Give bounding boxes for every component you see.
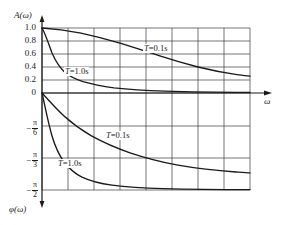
ytick-magnitude-0-4: 0.4 — [6, 62, 36, 71]
ytick-phase-pi-over-2: −π2 — [8, 180, 38, 199]
annotation-value: =1.0s — [63, 158, 82, 168]
pi-numerator: π — [32, 181, 38, 190]
y-axis-phase — [40, 93, 45, 208]
six-denominator: 6 — [32, 128, 38, 138]
annotation-phase-T10: T=1.0s — [57, 159, 82, 168]
ytick-magnitude-0-8: 0.8 — [6, 36, 36, 45]
response-plot-svg — [0, 0, 281, 225]
x-axis-arrow — [264, 91, 272, 96]
x-axis-label-omega: ω — [264, 97, 270, 106]
annotation-value: =0.1s — [111, 130, 130, 140]
pi-numerator: π — [32, 151, 38, 160]
ytick-magnitude-0-2: 0.2 — [6, 75, 36, 84]
ytick-phase-pi-over-6: −π6 — [8, 118, 38, 137]
ytick-phase-pi-over-3: −π3 — [8, 150, 38, 169]
y-axis-arrow-top — [40, 15, 45, 22]
y-axis-arrow-bottom — [40, 201, 45, 208]
figure-container: 1.0 0.8 0.6 0.4 0.2 0 −π6 −π3 −π2 A(ω) φ… — [0, 0, 281, 225]
annotation-magnitude-T01: T=0.1s — [143, 44, 168, 53]
annotation-phase-T01: T=0.1s — [105, 131, 130, 140]
y-axis-label-phase: φ(ω) — [9, 205, 26, 214]
ytick-magnitude-1-0: 1.0 — [6, 23, 36, 32]
three-denominator: 3 — [32, 160, 38, 170]
ytick-magnitude-0-6: 0.6 — [6, 49, 36, 58]
pi-numerator: π — [32, 119, 38, 128]
annotation-magnitude-T10: T=1.0s — [64, 67, 89, 76]
two-denominator: 2 — [32, 190, 38, 200]
ytick-magnitude-0: 0 — [6, 88, 36, 97]
annotation-value: =1.0s — [70, 66, 89, 76]
y-axis-label-magnitude: A(ω) — [14, 11, 32, 20]
annotation-value: =0.1s — [149, 43, 168, 53]
